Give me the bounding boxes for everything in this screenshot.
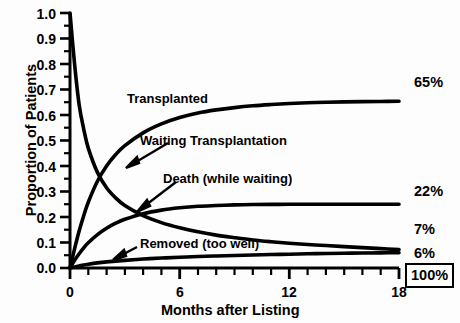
x-tick-label-6: 6 bbox=[165, 285, 195, 299]
total-percent-box: 100% bbox=[405, 263, 454, 288]
y-axis-title: Proportion of Patients bbox=[23, 64, 39, 216]
y-tick-label-0.9: 0.9 bbox=[16, 32, 56, 46]
chart-figure: 1.0 0.9 0.8 0.7 0.6 0.5 0.4 0.3 0.2 0.1 … bbox=[0, 0, 460, 323]
end-label-removed-too-well: 6% bbox=[414, 246, 435, 261]
series-curve-waiting-transplantation bbox=[70, 13, 399, 250]
chart-plot-area bbox=[0, 0, 460, 323]
x-tick-label-12: 12 bbox=[274, 285, 304, 299]
x-tick-label-0: 0 bbox=[55, 285, 85, 299]
y-axis-title-wrapper: Proportion of Patients bbox=[22, 45, 40, 235]
end-label-transplanted: 65% bbox=[414, 75, 443, 90]
x-axis-title: Months after Listing bbox=[161, 303, 300, 318]
y-tick-label-0.0: 0.0 bbox=[16, 261, 56, 275]
y-tick-label-0.1: 0.1 bbox=[16, 236, 56, 250]
x-axis-ticks bbox=[70, 268, 399, 279]
total-percent-label: 100% bbox=[411, 267, 448, 283]
y-tick-label-1.0: 1.0 bbox=[16, 7, 56, 21]
end-label-waiting-transplantation: 7% bbox=[414, 222, 435, 237]
series-label-transplanted: Transplanted bbox=[127, 92, 208, 105]
end-label-death-while-waiting: 22% bbox=[414, 184, 443, 199]
series-label-removed-too-well: Removed (too well) bbox=[140, 237, 259, 250]
series-label-waiting-transplantation: Waiting Transplantation bbox=[140, 134, 287, 147]
series-label-death-while-waiting: Death (while waiting) bbox=[163, 172, 292, 185]
